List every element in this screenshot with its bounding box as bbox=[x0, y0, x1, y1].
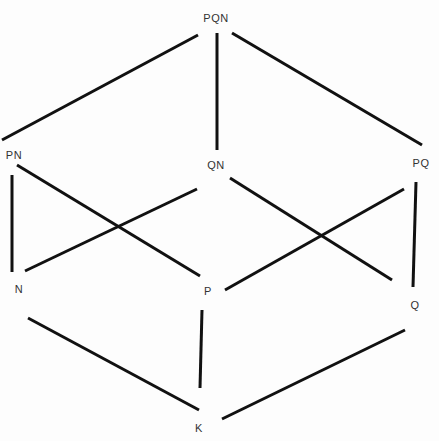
edge-qn-q bbox=[230, 178, 392, 280]
node-label-q: Q bbox=[410, 299, 419, 311]
node-label-pq: PQ bbox=[413, 157, 430, 169]
node-label-p: P bbox=[204, 285, 212, 297]
node-label-pqn: PQN bbox=[203, 12, 228, 24]
edge-pn-p bbox=[17, 165, 200, 276]
edge-n-k bbox=[28, 318, 199, 410]
node-label-n: N bbox=[15, 283, 23, 295]
edge-pq-p bbox=[225, 189, 404, 290]
diagram-edges bbox=[0, 0, 439, 441]
edge-pq-q bbox=[413, 182, 416, 287]
edge-pqn-pq bbox=[232, 33, 422, 145]
node-label-qn: QN bbox=[207, 159, 225, 171]
edge-p-k bbox=[200, 310, 202, 388]
edge-q-k bbox=[222, 330, 405, 419]
edge-pqn-pn bbox=[2, 35, 198, 140]
node-label-k: K bbox=[195, 422, 203, 434]
node-label-pn: PN bbox=[6, 149, 22, 161]
